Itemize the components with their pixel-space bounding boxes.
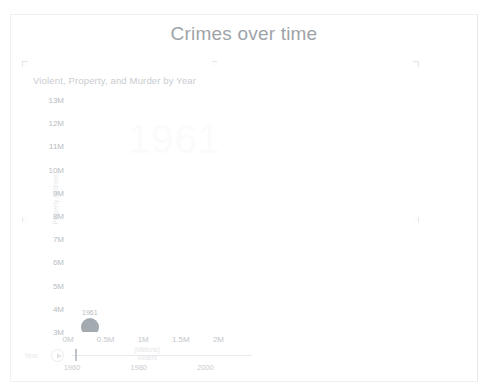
- report-page: Crimes over time Violent, Property, and …: [10, 14, 478, 382]
- page-title: Crimes over time: [11, 23, 477, 45]
- resize-handle-middle-right[interactable]: [413, 217, 419, 222]
- x-axis-tick: 0.5M: [97, 335, 115, 344]
- x-axis-tick: 1.5M: [172, 335, 190, 344]
- slider-tick: 2000: [197, 363, 214, 372]
- play-triangle: [57, 353, 62, 359]
- y-axis-tick: 11M: [49, 142, 64, 151]
- resize-handle-top-center[interactable]: [212, 61, 217, 67]
- scatter-chart-visual[interactable]: Violent, Property, and Murder by Year 19…: [16, 57, 420, 373]
- slider-tick: 1960: [64, 363, 81, 372]
- year-play-axis-slider[interactable]: Year 196019802000: [24, 347, 264, 373]
- slider-tick: 1980: [130, 363, 147, 372]
- slider-label: Year: [24, 352, 38, 359]
- y-axis-tick: 7M: [53, 235, 64, 244]
- y-axis-tick: 13M: [48, 96, 64, 105]
- resize-handle-top-left[interactable]: [22, 61, 28, 67]
- play-icon[interactable]: [51, 349, 64, 362]
- data-points-layer: 1961: [68, 100, 226, 332]
- data-point-bubble[interactable]: [81, 318, 99, 332]
- data-point-label: 1961: [82, 309, 98, 316]
- plot-area[interactable]: Property (Millions) 13M12M11M10M9M8M7M6M…: [68, 100, 226, 332]
- x-axis-tick: 1M: [138, 335, 149, 344]
- resize-handle-top-right[interactable]: [413, 61, 419, 67]
- resize-handle-middle-left[interactable]: [22, 217, 28, 222]
- x-axis-tick: 0M: [62, 335, 73, 344]
- slider-handle[interactable]: [75, 349, 77, 361]
- y-axis-tick: 5M: [53, 281, 64, 290]
- y-axis-tick: 10M: [48, 165, 64, 174]
- slider-track[interactable]: [72, 355, 252, 356]
- y-axis-tick: 12M: [48, 119, 64, 128]
- x-axis-tick: 2M: [213, 335, 224, 344]
- y-axis-tick: 9M: [53, 188, 64, 197]
- y-axis-tick: 6M: [53, 258, 64, 267]
- y-axis-tick: 4M: [53, 304, 64, 313]
- y-axis-tick: 8M: [53, 212, 64, 221]
- visual-title: Violent, Property, and Murder by Year: [33, 75, 196, 86]
